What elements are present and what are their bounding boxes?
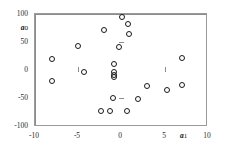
data-point <box>101 27 107 33</box>
data-point <box>107 108 113 114</box>
data-point <box>144 83 150 89</box>
data-point <box>125 21 131 27</box>
plot-area <box>34 13 207 126</box>
data-point <box>135 96 141 102</box>
y-axis-title: a0 <box>4 23 28 33</box>
data-point <box>75 43 81 49</box>
y-axis-tick-50 <box>119 42 124 43</box>
data-point <box>119 14 125 20</box>
y-tick-label-neg50: -50 <box>6 93 28 102</box>
y-tick-label-0: 0 <box>6 65 28 74</box>
x-axis-tick-neg5 <box>78 67 79 72</box>
data-point <box>116 44 122 50</box>
data-point <box>111 74 117 80</box>
data-point <box>81 69 87 75</box>
data-point <box>126 31 132 37</box>
x-axis-title-subscript: 1 <box>184 132 188 140</box>
data-point <box>110 95 116 101</box>
data-point <box>111 61 117 67</box>
data-point <box>124 108 130 114</box>
x-axis-tick-5 <box>165 67 166 72</box>
x-axis-title: a1 <box>180 131 187 141</box>
y-zero-axis-line <box>35 14 36 125</box>
data-point <box>49 78 55 84</box>
x-tick-label-10: 10 <box>195 131 219 140</box>
y-tick-label-50: 50 <box>6 37 28 46</box>
data-point <box>49 56 55 62</box>
x-tick-label-neg5: -5 <box>65 131 89 140</box>
y-tick-label-neg100: -100 <box>6 121 28 130</box>
y-axis-title-subscript: 0 <box>25 24 29 32</box>
data-point <box>98 108 104 114</box>
scatter-chart-figure: 100 50 0 -50 -100 a0 -10 -5 0 5 10 a1 <box>0 0 227 148</box>
y-axis-tick-neg50 <box>119 98 124 99</box>
y-tick-label-100: 100 <box>6 9 28 18</box>
data-point <box>179 82 185 88</box>
x-tick-label-5: 5 <box>152 131 176 140</box>
x-tick-label-neg10: -10 <box>22 131 46 140</box>
x-tick-label-0: 0 <box>108 131 132 140</box>
data-point <box>179 55 185 61</box>
data-point <box>164 87 170 93</box>
